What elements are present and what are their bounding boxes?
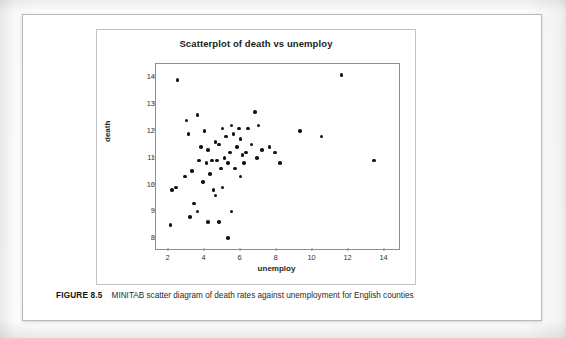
data-point bbox=[226, 161, 230, 165]
data-point bbox=[230, 210, 234, 214]
data-point bbox=[242, 161, 246, 165]
x-tick-label: 8 bbox=[274, 253, 278, 262]
data-point bbox=[232, 132, 236, 136]
x-tick-mark bbox=[311, 248, 312, 251]
x-tick-mark bbox=[203, 248, 204, 251]
data-point bbox=[257, 124, 261, 128]
data-point bbox=[235, 145, 239, 149]
data-point bbox=[169, 223, 173, 227]
plot-area bbox=[155, 63, 400, 250]
scanned-page: Scatterplot of death vs unemploy death 8… bbox=[0, 0, 566, 338]
data-point bbox=[208, 172, 212, 176]
x-tick-label: 6 bbox=[238, 253, 242, 262]
data-point bbox=[260, 148, 264, 152]
x-tick-label: 14 bbox=[379, 253, 387, 262]
x-tick-mark bbox=[275, 248, 276, 251]
figure-caption: FIGURE 8.5MINITAB scatter diagram of dea… bbox=[56, 291, 516, 300]
data-point bbox=[244, 151, 248, 155]
x-tick-label: 10 bbox=[307, 253, 315, 262]
data-point bbox=[226, 236, 230, 240]
data-point bbox=[217, 220, 221, 224]
x-tick-mark bbox=[383, 248, 384, 251]
figure-sheet: Scatterplot of death vs unemploy death 8… bbox=[22, 14, 542, 321]
data-point bbox=[340, 73, 344, 77]
data-point bbox=[320, 135, 324, 139]
data-point bbox=[187, 132, 191, 136]
data-point bbox=[224, 135, 228, 139]
x-tick-mark bbox=[239, 248, 240, 251]
data-point bbox=[217, 143, 221, 147]
x-tick-label: 12 bbox=[343, 253, 351, 262]
minitab-graph-panel: Scatterplot of death vs unemploy death 8… bbox=[96, 29, 416, 285]
data-point bbox=[230, 124, 234, 128]
data-point bbox=[268, 145, 272, 149]
x-axis-label: unemploy bbox=[155, 264, 398, 273]
data-point bbox=[212, 188, 216, 192]
data-point bbox=[246, 127, 250, 131]
data-point bbox=[237, 127, 241, 131]
data-point bbox=[273, 151, 277, 155]
data-point bbox=[219, 167, 223, 171]
data-point bbox=[239, 175, 243, 179]
data-point bbox=[250, 143, 254, 147]
data-point bbox=[233, 167, 237, 171]
data-point bbox=[174, 186, 178, 190]
data-point bbox=[255, 156, 259, 160]
y-axis-ticks: 891011121314 bbox=[123, 63, 155, 248]
x-tick-mark bbox=[347, 248, 348, 251]
data-point bbox=[253, 110, 257, 114]
data-point bbox=[221, 186, 225, 190]
data-point bbox=[185, 119, 189, 123]
x-tick-label: 4 bbox=[202, 253, 206, 262]
figure-caption-text: MINITAB scatter diagram of death rates a… bbox=[112, 291, 414, 300]
data-point bbox=[190, 169, 194, 173]
x-axis-ticks: 2468101214 bbox=[155, 248, 398, 264]
data-point bbox=[197, 159, 201, 163]
data-point bbox=[176, 78, 180, 82]
data-point bbox=[188, 215, 192, 219]
data-point bbox=[170, 188, 174, 192]
data-point bbox=[215, 159, 219, 163]
data-point bbox=[205, 161, 209, 165]
figure-number: FIGURE 8.5 bbox=[56, 291, 103, 300]
data-point bbox=[278, 161, 282, 165]
data-point bbox=[223, 156, 227, 160]
data-point bbox=[210, 159, 214, 163]
data-point bbox=[298, 129, 302, 133]
data-point bbox=[192, 202, 196, 206]
data-point bbox=[183, 175, 187, 179]
data-point bbox=[206, 220, 210, 224]
y-axis-label: death bbox=[103, 121, 112, 142]
data-point bbox=[196, 210, 200, 214]
chart-title: Scatterplot of death vs unemploy bbox=[97, 38, 415, 49]
data-point bbox=[239, 137, 243, 141]
x-tick-label: 2 bbox=[166, 253, 170, 262]
data-point bbox=[241, 153, 245, 157]
data-point bbox=[221, 127, 225, 131]
data-point bbox=[199, 145, 203, 149]
data-point bbox=[201, 180, 205, 184]
x-tick-mark bbox=[167, 248, 168, 251]
data-point bbox=[228, 151, 232, 155]
data-point bbox=[203, 129, 207, 133]
data-point bbox=[196, 113, 200, 117]
data-point bbox=[214, 194, 218, 198]
data-point bbox=[206, 148, 210, 152]
data-point bbox=[372, 159, 376, 163]
